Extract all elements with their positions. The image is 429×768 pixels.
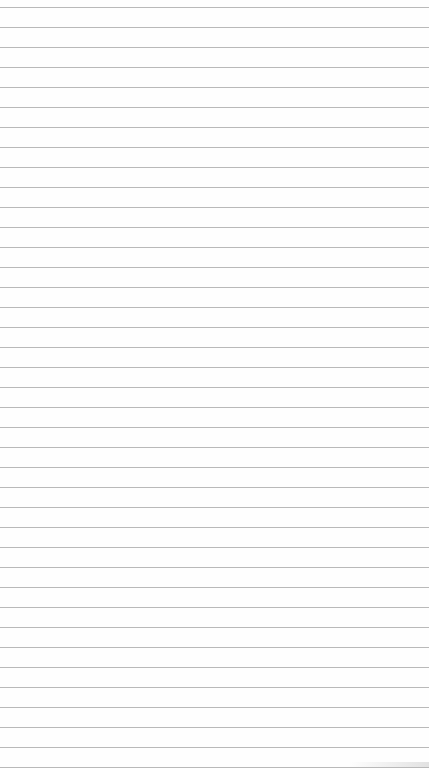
ruled-line <box>0 707 429 708</box>
ruled-line <box>0 427 429 428</box>
ruled-line <box>0 687 429 688</box>
ruled-line <box>0 207 429 208</box>
ruled-line <box>0 507 429 508</box>
ruled-line <box>0 307 429 308</box>
ruled-line <box>0 647 429 648</box>
ruled-line <box>0 467 429 468</box>
lined-paper-sheet <box>0 0 429 768</box>
ruled-line <box>0 547 429 548</box>
ruled-line <box>0 387 429 388</box>
ruled-line <box>0 347 429 348</box>
ruled-line <box>0 107 429 108</box>
ruled-line <box>0 527 429 528</box>
ruled-line <box>0 87 429 88</box>
ruled-line <box>0 407 429 408</box>
ruled-line <box>0 127 429 128</box>
ruled-line <box>0 287 429 288</box>
ruled-line <box>0 247 429 248</box>
ruled-line <box>0 487 429 488</box>
ruled-line <box>0 367 429 368</box>
ruled-line <box>0 567 429 568</box>
ruled-line <box>0 187 429 188</box>
ruled-line <box>0 627 429 628</box>
ruled-line <box>0 167 429 168</box>
ruled-line <box>0 67 429 68</box>
ruled-line <box>0 587 429 588</box>
ruled-line <box>0 147 429 148</box>
ruled-line <box>0 327 429 328</box>
ruled-line <box>0 7 429 8</box>
ruled-line <box>0 447 429 448</box>
ruled-line <box>0 267 429 268</box>
ruled-line <box>0 667 429 668</box>
ruled-line <box>0 27 429 28</box>
ruled-line <box>0 747 429 748</box>
ruled-line <box>0 227 429 228</box>
ruled-line <box>0 607 429 608</box>
ruled-line <box>0 47 429 48</box>
ruled-line <box>0 727 429 728</box>
